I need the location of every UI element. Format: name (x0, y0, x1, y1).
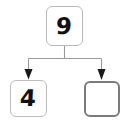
tree-node-child-right[interactable] (84, 81, 120, 117)
arrowhead-down-icon-right (98, 69, 106, 80)
tree-node-child-left[interactable]: 4 (10, 80, 47, 117)
tree-node-root[interactable]: 9 (46, 6, 83, 46)
diagram-canvas: 9 4 (0, 0, 131, 124)
tree-node-root-value: 9 (56, 15, 73, 38)
arrowhead-down-icon-left (25, 69, 33, 80)
edge-root-to-left (29, 46, 102, 70)
tree-node-child-left-value: 4 (20, 87, 37, 110)
